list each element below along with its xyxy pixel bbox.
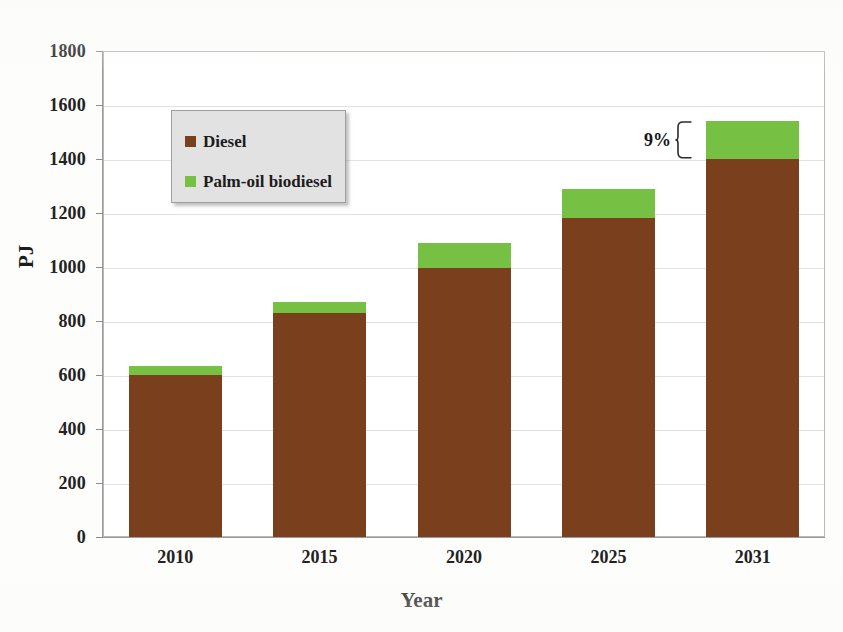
y-axis-tick xyxy=(96,213,103,214)
bar-segment-biodiesel-2015 xyxy=(273,302,366,313)
legend-label-palm-oil-biodiesel: Palm-oil biodiesel xyxy=(203,173,332,190)
y-axis-tick xyxy=(96,375,103,376)
y-axis-tick-label: 600 xyxy=(28,366,86,384)
y-axis-tick xyxy=(96,267,103,268)
x-axis-tick-label: 2031 xyxy=(693,548,813,566)
y-axis-tick xyxy=(96,159,103,160)
bar-segment-diesel-2025 xyxy=(562,218,655,537)
legend-item-diesel: Diesel xyxy=(185,133,246,150)
y-axis-tick-label: 1400 xyxy=(28,150,86,168)
y-axis-title: PJ xyxy=(14,245,39,268)
bar-stack-2020 xyxy=(418,243,511,537)
x-axis-tick-label: 2025 xyxy=(548,548,668,566)
legend-item-palm-oil-biodiesel: Palm-oil biodiesel xyxy=(185,173,332,190)
bar-segment-diesel-2020 xyxy=(418,268,511,537)
y-axis-tick xyxy=(96,483,103,484)
y-axis-tick xyxy=(96,321,103,322)
bar-segment-biodiesel-2020 xyxy=(418,243,511,269)
y-axis-tick-label: 400 xyxy=(28,420,86,438)
gridline xyxy=(104,106,824,107)
x-axis-tick-label: 2020 xyxy=(404,548,524,566)
legend-swatch-palm-oil-biodiesel xyxy=(185,176,196,187)
x-axis-line xyxy=(103,537,825,538)
bar-segment-diesel-2010 xyxy=(129,375,222,537)
chart-legend: Diesel Palm-oil biodiesel xyxy=(171,110,346,203)
x-axis-title: Year xyxy=(0,588,843,613)
bar-segment-diesel-2031 xyxy=(706,159,799,537)
bar-stack-2025 xyxy=(562,189,655,537)
bar-segment-biodiesel-2010 xyxy=(129,366,222,375)
x-axis-tick-label: 2010 xyxy=(115,548,235,566)
y-axis-tick xyxy=(96,537,103,538)
y-axis-tick-label: 200 xyxy=(28,474,86,492)
bar-segment-biodiesel-2031 xyxy=(706,121,799,159)
y-axis-tick xyxy=(96,105,103,106)
legend-label-diesel: Diesel xyxy=(203,133,246,150)
bar-segment-biodiesel-2025 xyxy=(562,189,655,219)
y-axis-line xyxy=(102,51,103,538)
y-axis-tick-label: 1800 xyxy=(28,42,86,60)
y-axis-tick-label: 800 xyxy=(28,312,86,330)
bar-segment-diesel-2015 xyxy=(273,313,366,537)
curly-brace-icon xyxy=(675,121,692,159)
percent-annotation-label: 9% xyxy=(644,131,671,149)
y-axis-tick-label: 1200 xyxy=(28,204,86,222)
x-axis-tick-label: 2015 xyxy=(260,548,380,566)
bar-stack-2031 xyxy=(706,121,799,537)
y-axis-tick-label: 1600 xyxy=(28,96,86,114)
bar-stack-2015 xyxy=(273,302,366,537)
legend-swatch-diesel xyxy=(185,136,196,147)
bar-stack-2010 xyxy=(129,366,222,537)
percent-annotation: 9% xyxy=(644,121,692,159)
y-axis-tick xyxy=(96,51,103,52)
chart-figure: 020040060080010001200140016001800 PJ 201… xyxy=(0,0,843,632)
y-axis-tick xyxy=(96,429,103,430)
y-axis-tick-label: 0 xyxy=(28,528,86,546)
